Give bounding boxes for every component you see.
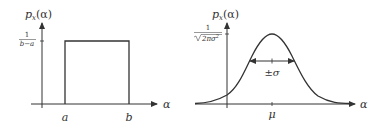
gaussian-panel: ±σ px(α) 1 2πσ2 α μ <box>194 8 368 121</box>
uniform-panel: px(α) 1 b−a α a b <box>19 8 171 124</box>
uniform-x-tick-a: a <box>62 111 69 124</box>
uniform-y-label: px(α) <box>25 8 52 22</box>
uniform-x-label: α <box>163 98 171 111</box>
uniform-pdf-curve <box>65 41 129 104</box>
gaussian-y-tick-numerator: 1 <box>206 24 210 32</box>
sigma-label: ±σ <box>264 67 280 78</box>
gaussian-y-label: px(α) <box>212 8 239 22</box>
gaussian-y-tick-denominator: 2πσ2 <box>201 33 219 43</box>
gaussian-x-tick-mu: μ <box>268 108 275 121</box>
gaussian-x-label: α <box>360 98 368 111</box>
distribution-figure: px(α) 1 b−a α a b ±σ px(α) 1 2πσ2 α μ <box>0 0 385 128</box>
uniform-y-tick-denominator: b−a <box>20 40 35 48</box>
uniform-x-tick-b: b <box>125 111 132 124</box>
uniform-y-tick-numerator: 1 <box>25 31 29 39</box>
